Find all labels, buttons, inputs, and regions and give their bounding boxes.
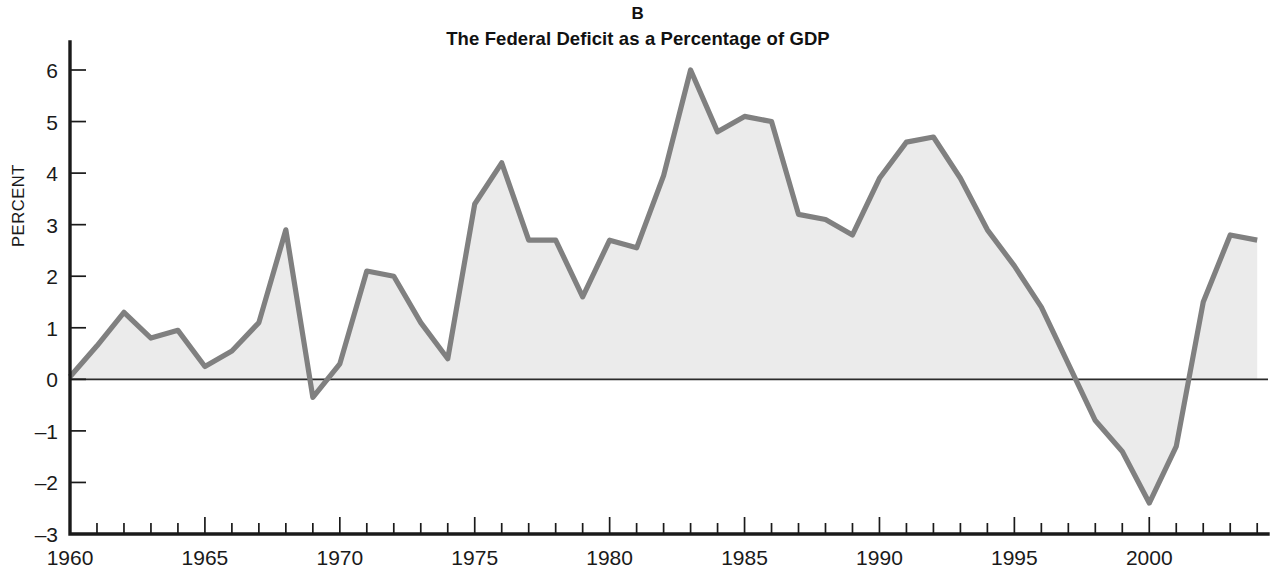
y-tick-label: 2	[46, 265, 58, 288]
x-tick-label: 1965	[182, 546, 229, 569]
x-tick-label: 1990	[856, 546, 903, 569]
x-tick-label: 1985	[721, 546, 768, 569]
x-tick-label: 1960	[47, 546, 94, 569]
series-area	[70, 70, 1257, 503]
x-tick-label: 2000	[1126, 546, 1173, 569]
y-tick-label: 1	[46, 317, 58, 340]
y-tick-label: 5	[46, 111, 58, 134]
series-area-group	[70, 70, 1257, 503]
y-tick-label: 3	[46, 214, 58, 237]
x-tick-label: 1995	[991, 546, 1038, 569]
x-tick-label: 1980	[586, 546, 633, 569]
y-tick-group	[70, 70, 86, 534]
chart-plot-area: 6543210–1–2–3 19601965197019751980198519…	[0, 0, 1276, 579]
figure-panel-b: B The Federal Deficit as a Percentage of…	[0, 0, 1276, 579]
x-tick-label: 1975	[451, 546, 498, 569]
y-tick-label: 6	[46, 59, 58, 82]
x-tick-label: 1970	[316, 546, 363, 569]
y-tick-label: 0	[46, 368, 58, 391]
y-tick-label: –3	[35, 523, 58, 546]
x-tick-label-group: 196019651970197519801985199019952000	[47, 546, 1173, 569]
y-tick-label-group: 6543210–1–2–3	[35, 59, 59, 546]
y-tick-label: –1	[35, 420, 58, 443]
x-tick-group	[70, 517, 1257, 534]
y-tick-label: –2	[35, 471, 58, 494]
y-tick-label: 4	[46, 162, 58, 185]
